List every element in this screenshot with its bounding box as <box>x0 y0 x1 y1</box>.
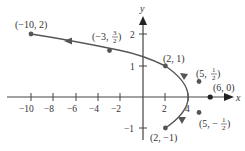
x-tick-label: −6 <box>67 104 77 114</box>
data-points <box>29 32 213 131</box>
svg-text:(−3,: (−3, <box>92 31 108 43</box>
y-tick-label: 1 <box>130 62 135 72</box>
direction-arrow-icons <box>64 38 188 125</box>
x-axis-label: x <box>235 92 241 103</box>
arrow-left-icon <box>64 38 72 45</box>
label-neg10-2: (−10, 2) <box>15 19 47 31</box>
svg-text:1: 1 <box>222 116 226 124</box>
point-neg3-1.5 <box>107 48 112 53</box>
label-2-1: (2, 1) <box>163 53 185 65</box>
y-axis-arrow-icon <box>139 16 147 25</box>
svg-text:): ) <box>118 31 121 43</box>
svg-text:(5,: (5, <box>196 68 207 80</box>
x-tick-label: −2 <box>111 104 121 114</box>
x-tick-label: 2 <box>162 104 167 114</box>
svg-text:): ) <box>217 68 220 80</box>
x-tick-label: −10 <box>19 104 34 114</box>
svg-text:2: 2 <box>113 37 117 45</box>
y-tick-label: −1 <box>124 124 134 134</box>
svg-text:2: 2 <box>222 124 226 132</box>
arrow-up-right-icon <box>178 117 186 124</box>
point-5-neg0.5 <box>197 110 202 115</box>
label-2-neg1: (2, −1) <box>150 132 177 144</box>
svg-text:(5, −: (5, − <box>199 118 218 130</box>
label-5-neg0.5: (5, − 1 2 ) <box>199 116 230 132</box>
svg-text:): ) <box>227 118 230 130</box>
x-tick-label: −4 <box>89 104 99 114</box>
x-tick-label: −8 <box>44 104 54 114</box>
point-6-0 <box>208 94 213 99</box>
label-6-0: (6, 0) <box>213 82 235 94</box>
y-axis-label: y <box>139 3 145 14</box>
svg-text:2: 2 <box>212 74 216 82</box>
x-axis-arrow-icon <box>224 93 234 101</box>
point-5-0.5 <box>197 79 202 84</box>
point-2-neg1 <box>163 126 168 131</box>
point-neg10-2 <box>29 32 34 37</box>
label-neg3-1.5: (−3, 3 2 ) <box>92 29 121 45</box>
svg-text:1: 1 <box>212 66 216 74</box>
point-2-1 <box>163 64 168 69</box>
y-tick-label: 2 <box>130 30 135 40</box>
svg-text:3: 3 <box>113 29 117 37</box>
chart: x y −10 −8 −6 −4 −2 2 4 2 1 −1 <box>0 0 245 151</box>
